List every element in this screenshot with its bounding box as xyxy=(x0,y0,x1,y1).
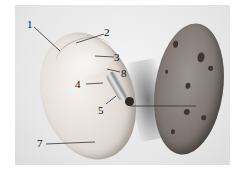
label-7: 7 xyxy=(37,138,43,149)
label-1: 1 xyxy=(27,19,33,30)
label-5: 5 xyxy=(98,105,104,116)
leader-lines xyxy=(0,0,243,177)
label-4: 4 xyxy=(75,79,81,90)
label-2: 2 xyxy=(104,27,110,38)
label-8: 8 xyxy=(121,68,127,79)
label-3: 3 xyxy=(114,52,120,63)
